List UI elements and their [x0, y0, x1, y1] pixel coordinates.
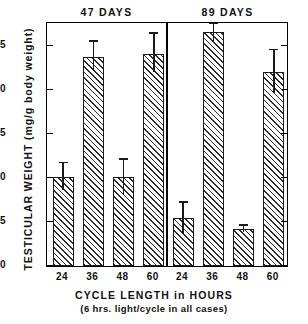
error-bar-cap [179, 201, 188, 202]
x-tick-label: 24 [176, 271, 188, 282]
y-tick-right [281, 265, 287, 266]
error-bar-cap [119, 158, 128, 159]
y-tick-left [47, 177, 53, 178]
y-tick-right [281, 177, 287, 178]
y-tick-label: 20 [0, 83, 6, 94]
x-tick-label: 60 [147, 271, 159, 282]
error-bar-cap [269, 49, 278, 50]
bar [263, 72, 284, 266]
error-bar [213, 24, 214, 41]
x-tick-label: 60 [267, 271, 279, 282]
bars-container [47, 23, 287, 266]
error-bar-cap [59, 162, 68, 163]
y-tick-right [281, 133, 287, 134]
bar [83, 57, 104, 266]
error-bar [243, 226, 244, 232]
y-tick-label: 5 [0, 215, 6, 226]
y-tick-label: 15 [0, 127, 6, 138]
error-bar [153, 34, 154, 72]
x-axis-title: CYCLE LENGTH in HOURS [0, 289, 308, 301]
y-tick-label: 10 [0, 171, 6, 182]
y-tick-label: 25 [0, 39, 6, 50]
x-tick-label: 36 [206, 271, 218, 282]
y-tick-left [47, 265, 53, 266]
panel-title-left: 47 DAYS [46, 6, 167, 18]
error-bar-cap [209, 23, 218, 24]
y-tick-label: 0 [0, 259, 6, 270]
bar [143, 54, 164, 266]
error-bar [123, 160, 124, 195]
chart-figure: TESTICULAR WEIGHT (mg/g body weight) 051… [0, 0, 308, 324]
error-bar-cap [239, 224, 248, 225]
bar [53, 177, 74, 266]
y-tick-left [47, 221, 53, 222]
error-bar-cap [89, 40, 98, 41]
x-axis-subtitle: (6 hrs. light/cycle in all cases) [0, 303, 308, 314]
y-axis-title: TESTICULAR WEIGHT (mg/g body weight) [22, 24, 34, 274]
y-tick-left [47, 89, 53, 90]
error-bar-cap [149, 32, 158, 33]
bar [203, 32, 224, 266]
x-tick-label: 24 [56, 271, 68, 282]
plot-area [46, 22, 288, 267]
y-tick-right [281, 45, 287, 46]
bar [233, 229, 254, 266]
error-bar [93, 42, 94, 71]
y-tick-right [281, 89, 287, 90]
y-tick-left [47, 133, 53, 134]
x-tick-label: 48 [116, 271, 128, 282]
panel-title-right: 89 DAYS [167, 6, 288, 18]
x-tick-label: 48 [236, 271, 248, 282]
y-tick-left [47, 45, 53, 46]
y-tick-right [281, 221, 287, 222]
error-bar [273, 50, 274, 92]
x-tick-label: 36 [86, 271, 98, 282]
error-bar [62, 163, 63, 190]
error-bar [182, 203, 183, 235]
